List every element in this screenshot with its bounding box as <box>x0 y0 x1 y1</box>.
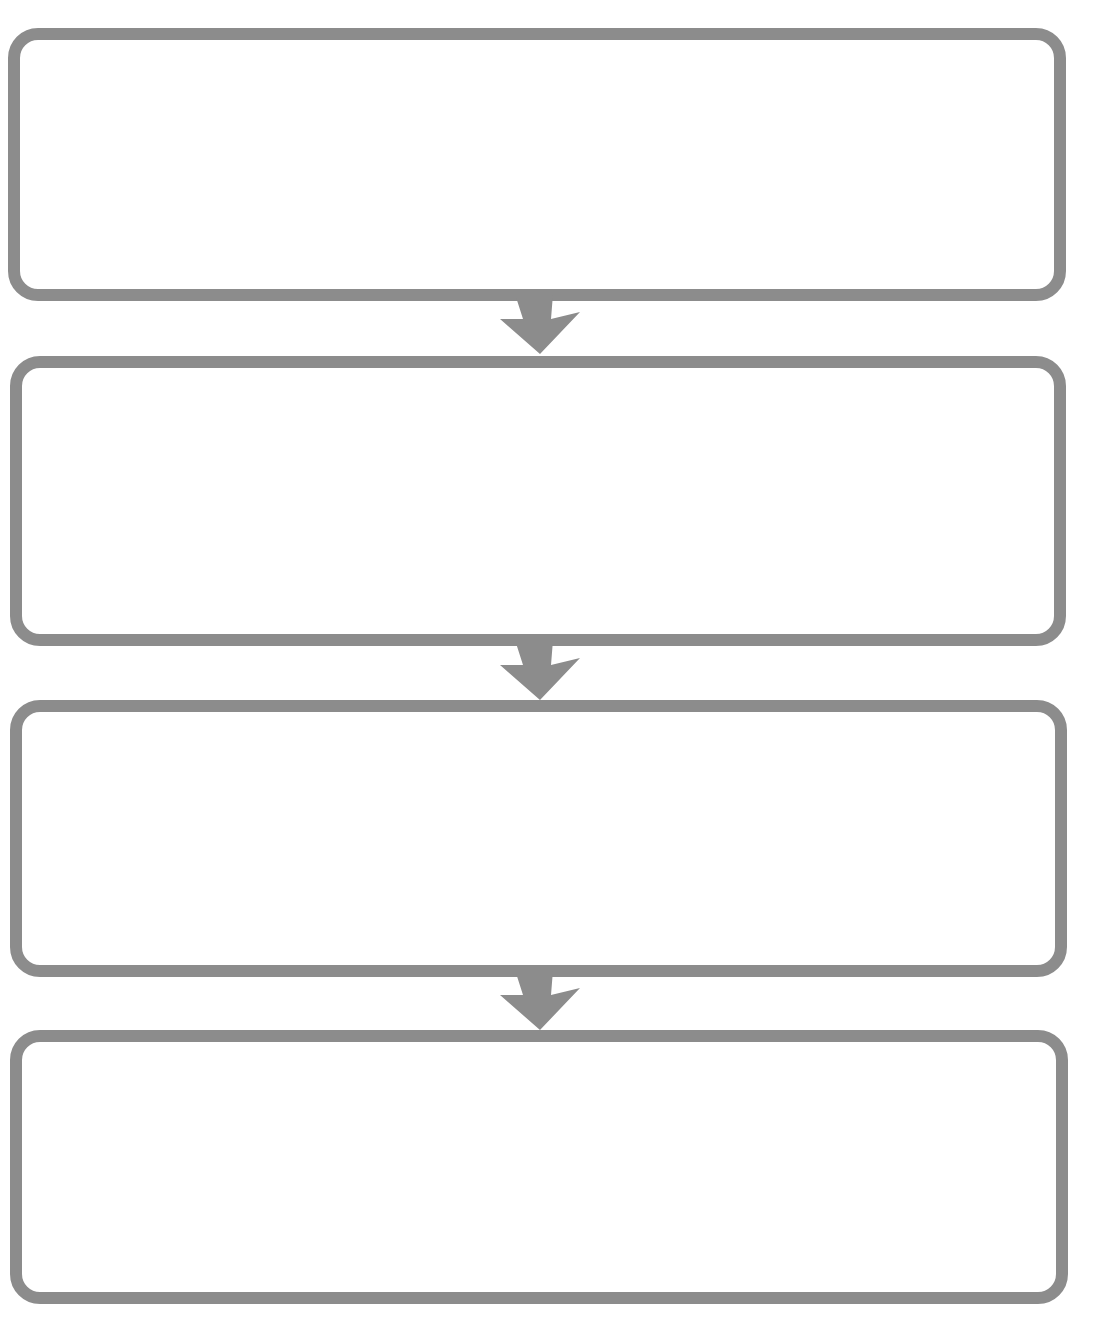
arrow-down-icon <box>495 640 585 700</box>
flowchart-box-1 <box>8 28 1066 301</box>
arrow-down-icon <box>495 294 585 354</box>
arrow-down-icon <box>495 970 585 1030</box>
flowchart-box-4 <box>10 1030 1068 1304</box>
flowchart-box-3 <box>10 700 1067 977</box>
flowchart-box-2 <box>10 356 1066 646</box>
